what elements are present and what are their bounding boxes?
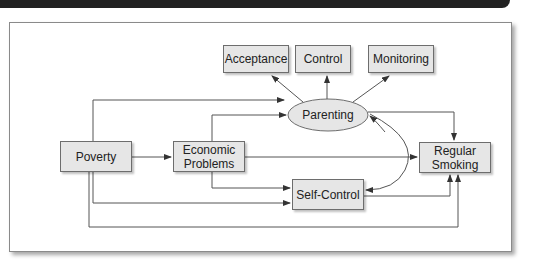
node-economic-problems: Economic Problems (173, 141, 245, 172)
node-label: Poverty (76, 150, 117, 164)
node-label: Control (304, 52, 343, 66)
node-monitoring: Monitoring (368, 45, 434, 73)
node-label: Monitoring (373, 52, 429, 66)
node-parenting: Parenting (288, 99, 368, 131)
node-acceptance: Acceptance (223, 45, 289, 73)
node-regular-smoking: Regular Smoking (419, 142, 491, 173)
node-label: Regular Smoking (426, 144, 484, 172)
node-label: Self-Control (296, 188, 359, 202)
diagram-arrows (0, 0, 559, 260)
node-poverty: Poverty (60, 141, 132, 172)
node-label: Economic Problems (179, 143, 239, 171)
node-label: Parenting (302, 108, 353, 122)
node-self-control: Self-Control (292, 179, 364, 210)
node-control: Control (295, 45, 351, 73)
node-label: Acceptance (225, 52, 288, 66)
